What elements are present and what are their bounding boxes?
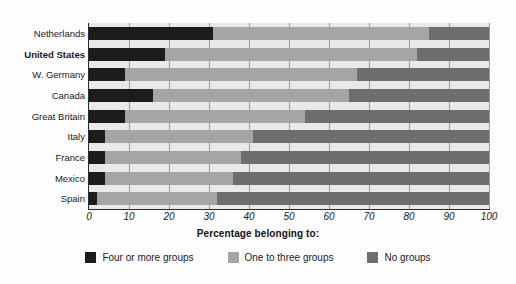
x-tick-label-80: 80 — [403, 211, 414, 222]
bar-row — [89, 172, 489, 185]
bar-segment — [233, 172, 489, 185]
bar-segment — [97, 192, 217, 205]
legend-item: Four or more groups — [85, 252, 193, 263]
x-tick-label-70: 70 — [363, 211, 374, 222]
y-axis-label: France — [0, 151, 85, 164]
bar-segment — [357, 68, 489, 81]
bar-segment — [153, 89, 349, 102]
x-tick-label-40: 40 — [243, 211, 254, 222]
bar-segment — [105, 172, 233, 185]
x-tick-label-90: 90 — [443, 211, 454, 222]
y-axis-label: Mexico — [0, 172, 85, 185]
y-axis-label: Italy — [0, 130, 85, 143]
bar-row — [89, 110, 489, 123]
y-axis-label: Canada — [0, 89, 85, 102]
y-axis-label: Netherlands — [0, 27, 85, 40]
legend-item: No groups — [367, 252, 430, 263]
y-axis-label: Spain — [0, 192, 85, 205]
x-axis-title: Percentage belonging to: — [0, 228, 516, 239]
bar-row — [89, 192, 489, 205]
bar-segment — [89, 89, 153, 102]
bar-segment — [125, 110, 305, 123]
bar-segment — [305, 110, 489, 123]
chart-legend: Four or more groupsOne to three groupsNo… — [0, 252, 516, 263]
bar-segment — [253, 130, 489, 143]
legend-label: Four or more groups — [102, 252, 193, 263]
y-axis-label: Great Britain — [0, 110, 85, 123]
legend-swatch-icon — [367, 252, 378, 263]
bar-segment — [89, 151, 105, 164]
bar-segment — [89, 27, 213, 40]
bar-row — [89, 27, 489, 40]
bar-segment — [89, 48, 165, 61]
bar-segment — [429, 27, 489, 40]
legend-swatch-icon — [85, 252, 96, 263]
legend-label: One to three groups — [245, 252, 334, 263]
bar-segment — [349, 89, 489, 102]
y-axis-label: United States — [0, 48, 85, 61]
bar-segment — [89, 192, 97, 205]
x-axis-line — [88, 209, 490, 210]
bar-segment — [89, 172, 105, 185]
x-tick-label-30: 30 — [203, 211, 214, 222]
bar-row — [89, 48, 489, 61]
gridline-100 — [489, 23, 490, 209]
bar-segment — [213, 27, 429, 40]
legend-label: No groups — [384, 252, 430, 263]
bar-segment — [105, 151, 241, 164]
plot-area — [89, 23, 489, 209]
x-axis-tick-labels: 0102030405060708090100 — [0, 211, 516, 227]
bar-segment — [125, 68, 357, 81]
y-axis-label: W. Germany — [0, 68, 85, 81]
y-axis-labels: NetherlandsUnited StatesW. GermanyCanada… — [0, 23, 85, 209]
x-tick-label-50: 50 — [283, 211, 294, 222]
bar-rows — [89, 23, 489, 209]
x-tick-label-100: 100 — [481, 211, 498, 222]
bar-row — [89, 151, 489, 164]
legend-swatch-icon — [228, 252, 239, 263]
bar-segment — [89, 68, 125, 81]
x-tick-label-20: 20 — [163, 211, 174, 222]
bar-segment — [89, 130, 105, 143]
x-tick-label-10: 10 — [123, 211, 134, 222]
bar-segment — [89, 110, 125, 123]
y-axis-line — [88, 23, 89, 210]
bar-row — [89, 89, 489, 102]
bar-row — [89, 130, 489, 143]
bar-segment — [165, 48, 417, 61]
bar-segment — [241, 151, 489, 164]
legend-item: One to three groups — [228, 252, 334, 263]
x-tick-label-60: 60 — [323, 211, 334, 222]
bar-segment — [417, 48, 489, 61]
bar-segment — [217, 192, 489, 205]
x-tick-label-0: 0 — [86, 211, 92, 222]
bar-segment — [105, 130, 253, 143]
bar-row — [89, 68, 489, 81]
stacked-bar-chart: NetherlandsUnited StatesW. GermanyCanada… — [0, 0, 516, 284]
